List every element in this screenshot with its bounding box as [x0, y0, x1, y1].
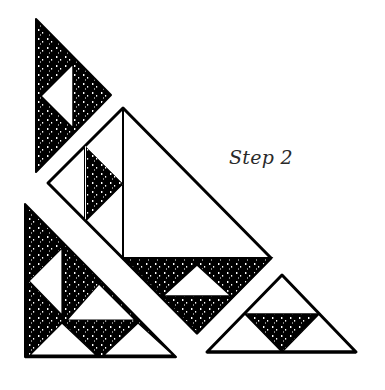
- step-caption: Step 2: [229, 146, 293, 168]
- quilt-diagram: [0, 0, 385, 390]
